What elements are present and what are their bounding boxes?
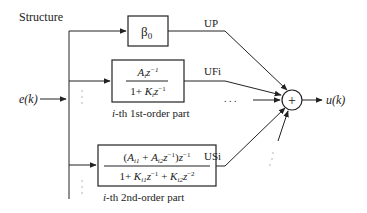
signal-line-usi: [216, 108, 285, 166]
signal-label-ufi: UFi: [204, 65, 221, 77]
second-order-numerator: (Ai1 + Ai2z−1)z−1: [124, 151, 191, 165]
first-order-caption: i-th 1st-order part: [112, 107, 190, 119]
dotted-continuation-right: [269, 152, 273, 165]
input-label: e(k): [19, 92, 38, 106]
diagram-title: Structure: [19, 10, 63, 24]
output-label: u(k): [326, 93, 345, 107]
second-order-caption: i-th 2nd-order part: [103, 191, 184, 203]
extra-input-arrow: [278, 111, 288, 141]
signal-label-up: UP: [204, 17, 218, 29]
controller-structure-diagram: Structure e(k) β0 UP Aiz−1 1+ Kiz−1 i-th…: [0, 0, 367, 213]
dotted-continuation-left: [81, 90, 82, 193]
plus-icon: +: [288, 93, 296, 108]
ellipsis-more-parts: . . .: [224, 93, 237, 104]
signal-label-usi: USi: [204, 150, 221, 162]
